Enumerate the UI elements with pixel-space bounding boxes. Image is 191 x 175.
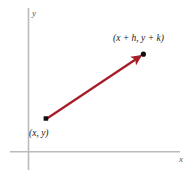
x-axis-label: x bbox=[179, 155, 183, 164]
start-point-label: (x, y) bbox=[29, 129, 49, 139]
start-point-marker bbox=[44, 116, 49, 121]
y-axis-label: y bbox=[32, 9, 36, 18]
end-point-marker bbox=[141, 52, 146, 57]
figure-canvas bbox=[0, 0, 191, 175]
vector-diagram-figure: y x (x + h, y + k) (x, y) bbox=[0, 0, 191, 175]
vector-arrow bbox=[47, 57, 140, 119]
end-point-label: (x + h, y + k) bbox=[113, 34, 164, 44]
